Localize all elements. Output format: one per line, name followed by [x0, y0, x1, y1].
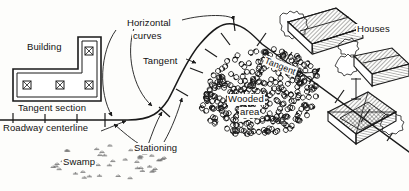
label-tangent-section: Tangent section — [17, 103, 87, 114]
label-building: Building — [26, 42, 63, 53]
wooded-area-symbol — [198, 46, 320, 137]
label-horizontal-curves-line1: Horizontal — [126, 18, 172, 29]
label-horizontal-curves-line2: curves — [132, 31, 163, 42]
leader-horizontal-curves-right — [182, 16, 234, 21]
label-wooded-area-line1: Wooded — [227, 94, 265, 105]
label-tangent: Tangent — [142, 56, 179, 67]
figure-canvas: Building Tangent section Roadway centerl… — [0, 0, 409, 191]
house-symbol-3 — [328, 92, 404, 144]
leader-horizontal-curves-left — [103, 30, 116, 116]
house-symbol-1 — [280, 8, 363, 57]
label-swamp: Swamp — [62, 157, 96, 168]
label-stationing: Stationing — [133, 143, 178, 154]
label-houses: Houses — [356, 24, 391, 35]
label-roadway-centerline: Roadway centerline — [2, 123, 89, 134]
leader-stationing-c — [164, 98, 182, 142]
label-wooded-area-line2: area — [239, 107, 260, 118]
